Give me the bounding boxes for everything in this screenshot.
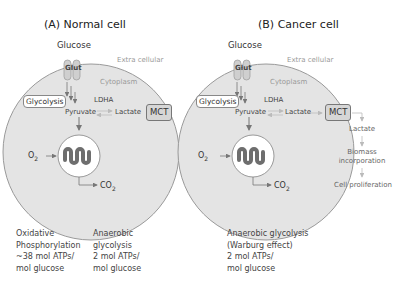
lactate-label: Lactate bbox=[285, 108, 311, 116]
glut-label: Glut bbox=[65, 64, 81, 72]
co2-label: CO2 bbox=[274, 181, 290, 192]
ldha-label: LDHA bbox=[94, 96, 113, 104]
o2-label: O2 bbox=[198, 151, 208, 162]
cytoplasm-label: Cytoplasm bbox=[100, 78, 137, 86]
pyruvate-label: Pyruvate bbox=[65, 108, 96, 116]
extracellular-label: Extra cellular bbox=[287, 56, 333, 64]
extracellular-label: Extra cellular bbox=[117, 56, 163, 64]
cancer-cell bbox=[178, 60, 362, 240]
mct-transporter: MCT bbox=[146, 104, 172, 121]
secreted-lactate-label: Lactate bbox=[349, 125, 375, 133]
mct-transporter: MCT bbox=[325, 104, 351, 121]
panel-b-title: (B) Cancer cell bbox=[258, 18, 339, 31]
panel-a-title: (A) Normal cell bbox=[44, 18, 126, 31]
warburg-note: Anaerobic glycolysis(Warburg effect)2 mo… bbox=[227, 228, 308, 274]
pyruvate-label: Pyruvate bbox=[235, 108, 266, 116]
glycolysis-box: Glycolysis bbox=[196, 95, 239, 108]
co2-label: CO2 bbox=[100, 181, 116, 192]
ldha-label: LDHA bbox=[264, 96, 283, 104]
glut-label: Glut bbox=[235, 64, 251, 72]
glucose-label: Glucose bbox=[228, 40, 262, 50]
oxphos-note: OxidativePhosphorylation~38 mol ATPs/mol… bbox=[16, 228, 80, 274]
cell-proliferation-label: Cell proliferation bbox=[334, 181, 392, 189]
glycolysis-box: Glycolysis bbox=[23, 95, 66, 108]
glucose-label: Glucose bbox=[57, 40, 91, 50]
anaerobic-note: Anaerobicglycolysis2 mol ATPs/mol glucos… bbox=[93, 228, 141, 274]
normal-cell bbox=[3, 60, 179, 240]
biomass-label: Biomassincorporation bbox=[337, 148, 387, 166]
lactate-label: Lactate bbox=[115, 108, 141, 116]
o2-label: O2 bbox=[28, 151, 38, 162]
cytoplasm-label: Cytoplasm bbox=[270, 78, 307, 86]
